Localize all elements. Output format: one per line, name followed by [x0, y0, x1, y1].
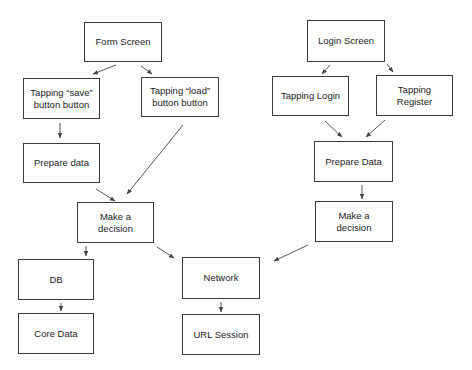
node-label: DB [49, 274, 62, 286]
edge-loginscreen-to-tapregister [387, 64, 393, 72]
node-make-decision-right: Make a decision [315, 201, 393, 242]
node-label: URL Session [193, 329, 248, 341]
node-prepare-data-right: Prepare Data [314, 141, 393, 182]
node-login-screen: Login Screen [307, 20, 385, 62]
node-label: Prepare data [34, 157, 89, 169]
node-url-session: URL Session [182, 314, 260, 355]
node-core-data: Core Data [18, 313, 94, 354]
flow-diagram: Form Screen Tapping “save” button button… [0, 0, 472, 370]
node-label: Core Data [34, 328, 77, 340]
edge-tapregister-to-prepare [366, 120, 385, 137]
edge-loginscreen-to-taplogin [322, 65, 330, 74]
edge-taplogin-to-prepare [325, 121, 342, 137]
edge-decision-right-to-network [274, 245, 308, 261]
node-tapping-login: Tapping Login [272, 76, 349, 116]
edge-form-to-load [141, 66, 152, 74]
node-label: Tapping Register [381, 84, 448, 108]
node-label: Tapping “load” button button [146, 85, 214, 109]
edge-decision-left-to-network [157, 247, 174, 258]
node-label: Form Screen [96, 36, 151, 48]
node-label: Make a decision [320, 210, 388, 234]
edge-form-to-save [93, 65, 116, 74]
node-tapping-load: Tapping “load” button button [141, 77, 219, 117]
node-label: Make a decision [82, 211, 149, 235]
node-form-screen: Form Screen [84, 22, 162, 62]
node-db: DB [18, 259, 94, 300]
node-make-decision-left: Make a decision [77, 202, 154, 243]
node-label: Tapping “save” button button [28, 87, 95, 111]
node-prepare-data-left: Prepare data [23, 143, 100, 183]
node-label: Prepare Data [325, 156, 382, 168]
node-tapping-register: Tapping Register [376, 75, 453, 116]
edge-prepare-to-decision [96, 189, 115, 201]
node-label: Network [204, 272, 239, 284]
node-tapping-save: Tapping “save” button button [23, 78, 100, 119]
node-label: Tapping Login [281, 90, 340, 102]
node-network: Network [182, 257, 260, 299]
edge-load-to-decision [127, 125, 183, 194]
node-label: Login Screen [318, 35, 374, 47]
